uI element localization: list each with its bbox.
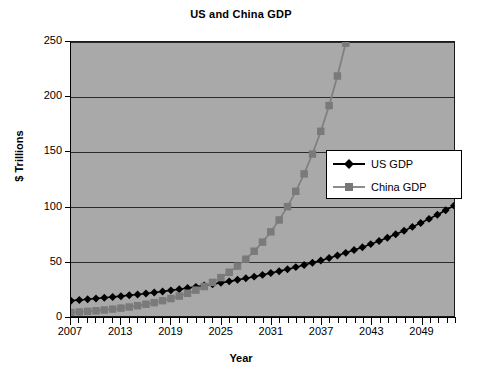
x-tick — [162, 318, 163, 323]
x-tick — [296, 318, 297, 323]
data-point-marker — [125, 291, 133, 299]
data-point-marker — [142, 301, 149, 308]
x-tick-label: 2031 — [248, 325, 294, 337]
data-point-marker — [375, 237, 383, 245]
x-tick — [288, 318, 289, 323]
legend-entry-us-gdp[interactable]: US GDP — [327, 153, 461, 175]
data-point-marker — [292, 188, 299, 195]
x-tick — [388, 318, 389, 323]
x-tick — [196, 318, 197, 323]
y-tick-label: 200 — [22, 90, 62, 100]
x-tick — [212, 318, 213, 323]
x-tick — [279, 318, 280, 323]
x-tick — [321, 318, 322, 325]
x-tick — [254, 318, 255, 323]
data-point-marker — [267, 269, 275, 277]
x-axis-title: Year — [0, 352, 482, 364]
x-tick-label: 2013 — [97, 325, 143, 337]
x-tick-label: 2049 — [399, 325, 445, 337]
x-tick — [329, 318, 330, 323]
data-point-marker — [92, 307, 99, 314]
y-axis-title: $ Trillions — [13, 96, 25, 216]
data-point-marker — [433, 211, 441, 219]
data-point-marker — [358, 243, 366, 251]
data-point-marker — [300, 170, 307, 177]
x-tick — [396, 318, 397, 323]
data-point-marker — [76, 308, 83, 315]
x-tick — [87, 318, 88, 323]
legend-marker-diamond-icon — [327, 155, 371, 173]
x-tick — [112, 318, 113, 323]
data-point-marker — [367, 240, 375, 248]
data-point-marker — [325, 102, 332, 109]
x-tick — [129, 318, 130, 323]
x-tick — [70, 318, 71, 325]
x-tick — [263, 318, 264, 323]
data-point-marker — [308, 259, 316, 267]
data-point-marker — [117, 292, 125, 300]
y-tick-label: 150 — [22, 145, 62, 155]
data-point-marker — [317, 256, 325, 264]
data-point-marker — [159, 287, 167, 295]
x-tick — [179, 318, 180, 323]
x-tick — [137, 318, 138, 323]
data-point-marker — [150, 299, 157, 306]
data-point-marker — [175, 285, 183, 293]
legend-entry-china-gdp[interactable]: China GDP — [327, 176, 461, 198]
x-tick-label: 2043 — [348, 325, 394, 337]
data-point-marker — [450, 202, 454, 210]
data-point-marker — [283, 265, 291, 273]
x-tick — [221, 318, 222, 325]
data-point-marker — [75, 296, 83, 304]
legend-marker-square-icon — [327, 178, 371, 196]
x-tick-label: 2019 — [147, 325, 193, 337]
data-point-marker — [167, 295, 174, 302]
data-point-marker — [317, 128, 324, 135]
data-point-marker — [292, 263, 300, 271]
data-point-marker — [225, 269, 232, 276]
data-point-marker — [342, 42, 349, 47]
data-point-marker — [234, 276, 242, 284]
data-point-marker — [184, 290, 191, 297]
x-tick — [380, 318, 381, 323]
data-point-marker — [275, 267, 283, 275]
data-point-marker — [84, 295, 92, 303]
data-point-marker — [71, 309, 75, 316]
x-tick — [313, 318, 314, 323]
data-point-marker — [259, 238, 266, 245]
x-tick — [120, 318, 121, 325]
data-point-marker — [250, 273, 258, 281]
x-axis-line — [70, 317, 456, 318]
data-point-marker — [192, 286, 199, 293]
y-tick-label: 50 — [22, 256, 62, 266]
legend-label-us-gdp: US GDP — [371, 158, 413, 170]
series-line — [71, 206, 454, 301]
data-point-marker — [259, 271, 267, 279]
gdp-line-chart: US and China GDP $ Trillions Year 050100… — [0, 0, 482, 378]
chart-legend[interactable]: US GDP China GDP — [326, 150, 462, 199]
x-tick — [455, 318, 456, 323]
data-point-marker — [92, 295, 100, 303]
x-tick — [237, 318, 238, 323]
x-tick — [145, 318, 146, 323]
x-tick — [438, 318, 439, 323]
data-point-marker — [134, 302, 141, 309]
x-tick — [154, 318, 155, 323]
x-tick — [103, 318, 104, 323]
data-point-marker — [117, 304, 124, 311]
data-point-marker — [225, 277, 233, 285]
x-tick — [413, 318, 414, 323]
x-tick — [405, 318, 406, 323]
x-tick — [246, 318, 247, 323]
x-tick — [355, 318, 356, 323]
y-axis-line — [70, 41, 71, 318]
data-point-marker — [142, 289, 150, 297]
x-tick-label: 2037 — [298, 325, 344, 337]
data-point-marker — [284, 203, 291, 210]
chart-title: US and China GDP — [0, 8, 482, 20]
data-point-marker — [309, 150, 316, 157]
x-tick — [271, 318, 272, 325]
data-point-marker — [275, 216, 282, 223]
data-point-marker — [176, 292, 183, 299]
x-tick — [304, 318, 305, 323]
